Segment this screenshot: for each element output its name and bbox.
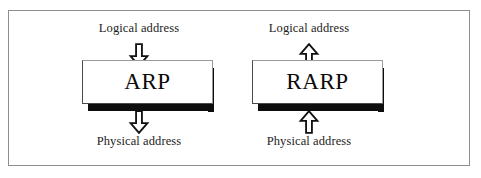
arp-bottom-label: Physical address <box>66 134 212 148</box>
arp-box-label: ARP <box>124 69 171 95</box>
rarp-box-body: RARP <box>252 60 383 104</box>
protocol-group-rarp: Logical address RARP Physical address <box>236 0 382 156</box>
rarp-top-label: Logical address <box>236 21 382 35</box>
arp-box-body: ARP <box>82 60 213 104</box>
figure-root: Logical address ARP Physical address Log… <box>0 0 481 178</box>
arp-top-label: Logical address <box>66 21 212 35</box>
arrow-down-icon <box>128 110 150 134</box>
rarp-box: RARP <box>252 60 383 104</box>
arp-box-shadow-bottom <box>88 104 214 111</box>
arrow-up-icon <box>298 110 320 134</box>
protocol-group-arp: Logical address ARP Physical address <box>66 0 212 156</box>
rarp-box-label: RARP <box>286 69 348 95</box>
rarp-bottom-label: Physical address <box>236 134 382 148</box>
rarp-box-shadow-bottom <box>258 104 384 111</box>
arp-box: ARP <box>82 60 213 104</box>
